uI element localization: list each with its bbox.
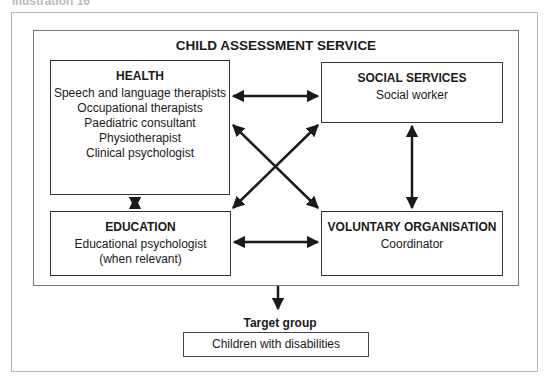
target-group-label: Target group xyxy=(150,316,410,330)
target-group-box: Children with disabilities xyxy=(183,332,369,357)
